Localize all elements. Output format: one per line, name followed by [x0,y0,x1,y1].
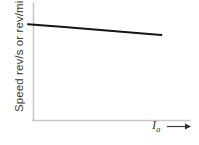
x-axis-label: Ia [152,119,160,136]
plot-area [0,0,199,145]
figure-container: Speed rev/s or rev/min Ia [0,0,199,145]
x-axis-arrow-head [185,124,191,130]
y-axis-label: Speed rev/s or rev/min [10,0,28,118]
x-axis-label-subscript: a [156,124,160,134]
speed-characteristic-line [28,24,161,35]
